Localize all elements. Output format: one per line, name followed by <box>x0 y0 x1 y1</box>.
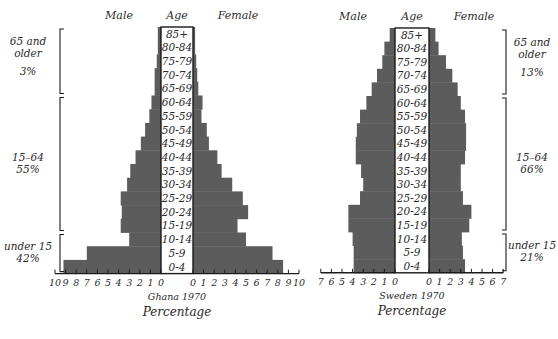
age-group-percent: 42% <box>15 252 39 264</box>
male-bar-85+ <box>390 28 395 42</box>
female-tick-label: 4 <box>231 277 238 288</box>
female-bar-75-79 <box>429 55 446 69</box>
female-tick-label: 0 <box>426 276 432 287</box>
female-header: Female <box>453 10 495 23</box>
female-bar-40-44 <box>429 150 465 164</box>
male-bar-0-4 <box>63 260 161 274</box>
female-tick-label: 3 <box>222 277 228 288</box>
male-bar-80-84 <box>384 42 395 56</box>
female-bar-55-59 <box>429 110 465 124</box>
male-tick-label: 1 <box>381 276 387 287</box>
female-bar-60-64 <box>429 96 461 110</box>
male-bar-10-14 <box>129 233 161 247</box>
x-axis-label: Percentage <box>377 304 447 318</box>
pyramid-sweden-1970: 85+80-8475-7970-7465-6960-6455-5950-5445… <box>318 10 557 318</box>
pyramid-ghana-1970: 85+80-8475-7970-7465-6960-6455-5950-5445… <box>4 9 305 319</box>
male-tick-label: 5 <box>339 276 345 287</box>
age-label: 15-19 <box>397 219 428 231</box>
female-bar-35-39 <box>429 164 461 178</box>
age-label: 65-69 <box>162 82 193 94</box>
age-label: 50-54 <box>397 124 427 136</box>
female-tick-label: 2 <box>210 277 217 288</box>
age-label: 45-49 <box>161 137 193 149</box>
age-label: 70-74 <box>397 69 427 81</box>
age-label: 75-79 <box>162 55 193 67</box>
female-bar-35-39 <box>193 164 222 178</box>
age-label: 55-59 <box>162 110 193 122</box>
male-bar-35-39 <box>130 164 161 178</box>
chart-title: Sweden 1970 <box>379 290 444 301</box>
age-label: 50-54 <box>162 124 192 136</box>
male-bar-5-9 <box>87 246 161 260</box>
male-tick-label: 1 <box>147 277 153 288</box>
age-label: 25-29 <box>161 192 193 204</box>
age-label: 30-34 <box>162 178 192 190</box>
age-header: Age <box>400 10 423 23</box>
male-tick-label: 5 <box>105 277 111 288</box>
female-bar-80-84 <box>429 42 439 56</box>
male-bar-55-59 <box>360 110 395 124</box>
male-bar-15-19 <box>348 218 395 232</box>
age-label: 15-19 <box>162 219 193 231</box>
male-bar-70-74 <box>155 68 161 82</box>
male-bar-60-64 <box>151 96 161 110</box>
female-bar-25-29 <box>193 191 243 205</box>
age-label: 20-24 <box>396 205 427 217</box>
female-bar-0-4 <box>193 260 283 274</box>
female-tick-label: 0 <box>190 277 196 288</box>
male-tick-label: 6 <box>94 277 100 288</box>
male-bar-15-19 <box>121 219 161 233</box>
male-tick-label: 2 <box>136 277 143 288</box>
age-label: 10-14 <box>397 233 427 245</box>
male-tick-label: 0 <box>158 277 164 288</box>
female-tick-label: 6 <box>490 276 496 287</box>
age-label: 85+ <box>166 28 188 40</box>
male-bar-30-34 <box>363 178 395 192</box>
age-label: 85+ <box>401 29 423 41</box>
female-bar-45-49 <box>193 137 209 151</box>
age-group-bracket <box>60 29 64 94</box>
male-tick-label: 3 <box>126 277 132 288</box>
male-tick-label: 7 <box>318 276 325 287</box>
age-group-label: older <box>518 48 547 60</box>
female-tick-label: 8 <box>275 277 281 288</box>
age-label: 80-84 <box>162 41 192 53</box>
age-group-label: 65 and <box>10 35 47 47</box>
age-label: 5-9 <box>404 246 421 258</box>
age-label: 70-74 <box>162 69 192 81</box>
female-bar-30-34 <box>429 178 461 192</box>
age-group-bracket <box>502 98 506 230</box>
x-axis-label: Percentage <box>142 305 212 319</box>
female-bar-60-64 <box>193 96 203 110</box>
male-bar-30-34 <box>127 178 161 192</box>
male-bar-20-24 <box>122 205 161 219</box>
male-bar-25-29 <box>121 191 161 205</box>
male-tick-label: 8 <box>73 277 79 288</box>
female-bar-25-29 <box>429 191 463 205</box>
age-label: 40-44 <box>161 151 192 163</box>
female-bar-0-4 <box>429 259 465 273</box>
female-bar-55-59 <box>193 109 201 123</box>
male-bar-75-79 <box>382 55 395 69</box>
male-bar-65-69 <box>155 82 161 96</box>
male-bar-70-74 <box>377 69 395 83</box>
male-bar-5-9 <box>354 246 395 260</box>
female-bar-15-19 <box>193 219 238 233</box>
age-group-percent: 3% <box>20 65 37 77</box>
male-bar-45-49 <box>356 137 395 151</box>
female-bar-50-54 <box>429 123 466 137</box>
female-bar-65-69 <box>193 82 198 96</box>
male-header: Male <box>104 9 133 22</box>
age-group-percent: 21% <box>519 251 543 263</box>
age-label: 35-39 <box>397 165 428 177</box>
male-tick-label: 4 <box>115 277 122 288</box>
age-label: 65-69 <box>397 83 428 95</box>
female-bar-10-14 <box>193 233 246 247</box>
age-label: 20-24 <box>161 206 192 218</box>
age-group-label: older <box>14 47 43 59</box>
female-bar-15-19 <box>429 218 469 232</box>
population-pyramids: 85+80-8475-7970-7465-6960-6455-5950-5445… <box>0 0 558 339</box>
age-label: 55-59 <box>397 110 428 122</box>
age-group-label: 15–64 <box>516 151 548 163</box>
age-label: 10-14 <box>162 233 192 245</box>
